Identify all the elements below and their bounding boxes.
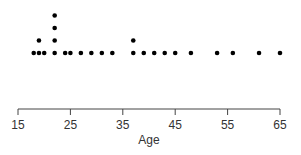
x-axis: 152535455565 [11, 109, 287, 132]
data-point [231, 51, 236, 56]
x-axis-ticks: 152535455565 [11, 109, 287, 132]
data-point [52, 51, 57, 56]
data-point [189, 51, 194, 56]
data-point [37, 38, 42, 43]
data-point [110, 51, 115, 56]
data-point [79, 51, 84, 56]
data-point [152, 51, 157, 56]
data-point [42, 51, 47, 56]
data-point [100, 51, 105, 56]
data-point [131, 38, 136, 43]
data-point [31, 51, 36, 56]
data-point [52, 13, 57, 18]
data-point [141, 51, 146, 56]
dot-plot: 152535455565 Age [0, 0, 301, 155]
x-tick-label: 55 [221, 118, 235, 132]
data-point [89, 51, 94, 56]
data-point [215, 51, 220, 56]
data-point [37, 51, 42, 56]
data-point [52, 38, 57, 43]
x-tick-label: 65 [273, 118, 287, 132]
data-point [278, 51, 283, 56]
data-point [131, 51, 136, 56]
data-point [257, 51, 262, 56]
x-tick-label: 45 [169, 118, 183, 132]
data-point [68, 51, 73, 56]
data-points [31, 13, 282, 55]
data-point [173, 51, 178, 56]
x-axis-title: Age [138, 133, 160, 147]
x-tick-label: 35 [116, 118, 130, 132]
data-point [162, 51, 167, 56]
x-tick-label: 25 [64, 118, 78, 132]
data-point [63, 51, 68, 56]
x-tick-label: 15 [11, 118, 25, 132]
data-point [52, 26, 57, 31]
